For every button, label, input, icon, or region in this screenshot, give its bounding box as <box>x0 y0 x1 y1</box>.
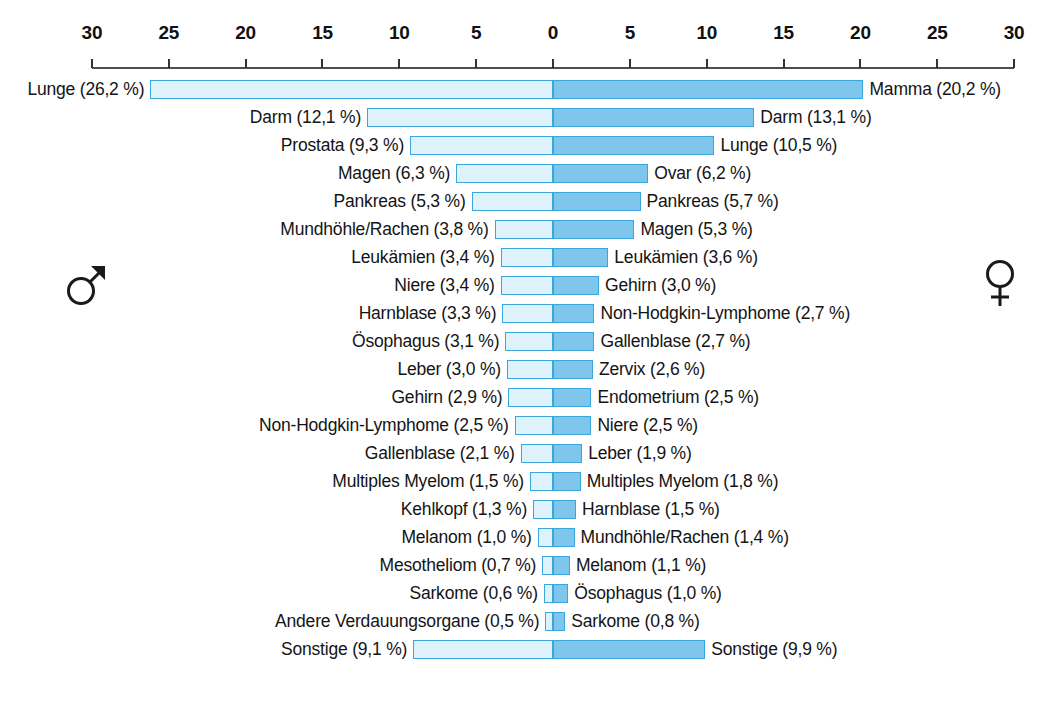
bar-female <box>553 416 591 435</box>
bar-label-female: Ovar (6,2 %) <box>654 162 751 185</box>
bar-female <box>553 136 714 155</box>
bar-label-male: Niere (3,4 %) <box>394 274 495 297</box>
chart-row: Mesotheliom (0,7 %)Melanom (1,1 %) <box>0 552 1053 580</box>
axis-tick-label: 5 <box>446 22 506 44</box>
bar-female <box>553 612 565 631</box>
axis-tick-label: 25 <box>907 22 967 44</box>
bar-male <box>530 472 553 491</box>
bar-label-male: Sonstige (9,1 %) <box>281 638 407 661</box>
chart-row: Prostata (9,3 %)Lunge (10,5 %) <box>0 132 1053 160</box>
chart-row: Melanom (1,0 %)Mundhöhle/Rachen (1,4 %) <box>0 524 1053 552</box>
axis-tick-label: 0 <box>523 22 583 44</box>
bar-female <box>553 584 568 603</box>
axis-tick-label: 30 <box>984 22 1044 44</box>
bar-female <box>553 164 648 183</box>
bar-label-female: Pankreas (5,7 %) <box>647 190 779 213</box>
diverging-bar-chart: 30252015105051015202530 Lunge (26,2 %)Ma… <box>0 0 1053 725</box>
bar-male <box>542 556 553 575</box>
chart-row: Multiples Myelom (1,5 %)Multiples Myelom… <box>0 468 1053 496</box>
bar-label-male: Andere Verdauungsorgane (0,5 %) <box>275 610 539 633</box>
chart-row: Kehlkopf (1,3 %)Harnblase (1,5 %) <box>0 496 1053 524</box>
chart-row: Leukämien (3,4 %)Leukämien (3,6 %) <box>0 244 1053 272</box>
bar-female <box>553 304 594 323</box>
bar-label-male: Harnblase (3,3 %) <box>359 302 497 325</box>
bar-label-female: Niere (2,5 %) <box>597 414 698 437</box>
chart-rows: Lunge (26,2 %)Mamma (20,2 %)Darm (12,1 %… <box>0 76 1053 664</box>
bar-male <box>495 220 553 239</box>
bar-label-male: Magen (6,3 %) <box>338 162 450 185</box>
bar-label-female: Zervix (2,6 %) <box>599 358 705 381</box>
bar-label-male: Mesotheliom (0,7 %) <box>380 554 537 577</box>
bar-label-male: Non-Hodgkin-Lymphome (2,5 %) <box>259 414 509 437</box>
chart-row: Niere (3,4 %)Gehirn (3,0 %) <box>0 272 1053 300</box>
axis-tick-label: 20 <box>216 22 276 44</box>
bar-label-female: Leber (1,9 %) <box>588 442 691 465</box>
axis-tick-label: 15 <box>292 22 352 44</box>
axis-tick-label: 20 <box>830 22 890 44</box>
bar-label-female: Non-Hodgkin-Lymphome (2,7 %) <box>600 302 850 325</box>
bar-female <box>553 528 575 547</box>
bar-label-female: Leukämien (3,6 %) <box>614 246 757 269</box>
bar-male <box>501 276 553 295</box>
bar-label-male: Ösophagus (3,1 %) <box>352 330 499 353</box>
bar-female <box>553 108 754 127</box>
bar-male <box>545 612 553 631</box>
axis-tick <box>168 59 170 68</box>
chart-row: Pankreas (5,3 %)Pankreas (5,7 %) <box>0 188 1053 216</box>
chart-row: Sonstige (9,1 %)Sonstige (9,9 %) <box>0 636 1053 664</box>
axis-tick-label: 30 <box>62 22 122 44</box>
chart-row: Magen (6,3 %)Ovar (6,2 %) <box>0 160 1053 188</box>
bar-label-female: Mamma (20,2 %) <box>869 78 1000 101</box>
chart-row: Sarkome (0,6 %)Ösophagus (1,0 %) <box>0 580 1053 608</box>
chart-row: Andere Verdauungsorgane (0,5 %)Sarkome (… <box>0 608 1053 636</box>
bar-label-male: Leber (3,0 %) <box>397 358 500 381</box>
bar-label-male: Lunge (26,2 %) <box>27 78 144 101</box>
bar-female <box>553 248 608 267</box>
bar-male <box>501 248 553 267</box>
bar-label-female: Sarkome (0,8 %) <box>571 610 699 633</box>
axis-tick-label: 5 <box>600 22 660 44</box>
bar-label-male: Leukämien (3,4 %) <box>351 246 494 269</box>
axis-tick <box>552 59 554 68</box>
chart-row: Ösophagus (3,1 %)Gallenblase (2,7 %) <box>0 328 1053 356</box>
axis-tick <box>398 59 400 68</box>
bar-label-male: Pankreas (5,3 %) <box>334 190 466 213</box>
bar-label-female: Melanom (1,1 %) <box>576 554 706 577</box>
chart-row: Darm (12,1 %)Darm (13,1 %) <box>0 104 1053 132</box>
axis-tick <box>783 59 785 68</box>
bar-female <box>553 444 582 463</box>
bar-label-male: Gallenblase (2,1 %) <box>365 442 515 465</box>
bar-female <box>553 332 594 351</box>
bar-male <box>456 164 553 183</box>
female-symbol-icon <box>978 258 1022 310</box>
bar-label-male: Darm (12,1 %) <box>250 106 361 129</box>
chart-row: Harnblase (3,3 %)Non-Hodgkin-Lymphome (2… <box>0 300 1053 328</box>
bar-female <box>553 472 581 491</box>
bar-female <box>553 220 634 239</box>
chart-row: Non-Hodgkin-Lymphome (2,5 %)Niere (2,5 %… <box>0 412 1053 440</box>
bar-female <box>553 360 593 379</box>
axis-tick-label: 10 <box>677 22 737 44</box>
bar-female <box>553 192 641 211</box>
axis-tick <box>321 59 323 68</box>
bar-female <box>553 640 705 659</box>
bar-label-female: Lunge (10,5 %) <box>720 134 837 157</box>
bar-label-female: Sonstige (9,9 %) <box>711 638 837 661</box>
bar-male <box>544 584 553 603</box>
bar-female <box>553 80 863 99</box>
bar-label-female: Gehirn (3,0 %) <box>605 274 716 297</box>
bar-male <box>538 528 553 547</box>
bar-label-female: Endometrium (2,5 %) <box>597 386 759 409</box>
chart-row: Gallenblase (2,1 %)Leber (1,9 %) <box>0 440 1053 468</box>
axis-tick <box>245 59 247 68</box>
bar-female <box>553 276 599 295</box>
chart-row: Lunge (26,2 %)Mamma (20,2 %) <box>0 76 1053 104</box>
chart-row: Gehirn (2,9 %)Endometrium (2,5 %) <box>0 384 1053 412</box>
bar-label-male: Melanom (1,0 %) <box>401 526 531 549</box>
axis-tick <box>91 59 93 68</box>
axis-tick <box>706 59 708 68</box>
bar-label-female: Mundhöhle/Rachen (1,4 %) <box>581 526 789 549</box>
chart-row: Mundhöhle/Rachen (3,8 %)Magen (5,3 %) <box>0 216 1053 244</box>
axis-tick <box>1013 59 1015 68</box>
bar-label-female: Harnblase (1,5 %) <box>582 498 720 521</box>
